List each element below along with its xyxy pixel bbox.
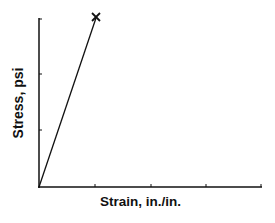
stress-strain-line <box>39 18 96 187</box>
x-axis-label: Strain, in./in. <box>100 194 181 209</box>
y-axis-label-text: Stress, psi <box>10 68 26 139</box>
stress-strain-plot <box>0 0 275 223</box>
